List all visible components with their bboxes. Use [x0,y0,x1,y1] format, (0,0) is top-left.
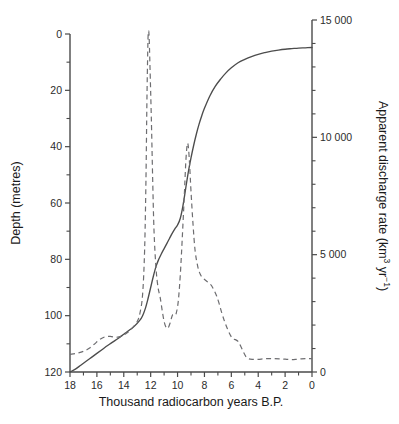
left-axis-ticks: 020406080100120 [44,28,70,378]
bottom-tick-label: 18 [64,379,76,391]
chart-canvas: 020406080100120 181614121086420 05 00010… [0,0,399,424]
left-tick-label: 20 [50,84,62,96]
bottom-tick-label: 2 [282,379,288,391]
data-series-group [70,31,312,372]
right-tick-label: 10 000 [320,131,352,143]
left-tick-label: 40 [50,140,62,152]
x-axis-title: Thousand radiocarbon years B.P. [99,395,284,409]
bottom-axis-ticks: 181614121086420 [64,372,315,391]
bottom-tick-label: 12 [145,379,157,391]
left-tick-label: 80 [50,253,62,265]
left-tick-label: 60 [50,197,62,209]
bottom-tick-label: 4 [255,379,261,391]
right-tick-label: 15 000 [320,14,352,26]
series-discharge-curve [70,31,312,360]
bottom-tick-label: 6 [228,379,234,391]
bottom-tick-label: 8 [202,379,208,391]
right-axis-ticks: 05 00010 00015 000 [312,14,352,378]
bottom-tick-label: 0 [309,379,315,391]
left-axis-title: Depth (metres) [9,161,23,244]
right-axis-title: Apparent discharge rate (km3 yr−1) [376,101,392,291]
bottom-tick-label: 10 [172,379,184,391]
left-tick-label: 120 [44,366,62,378]
bottom-tick-label: 14 [118,379,130,391]
left-tick-label: 0 [56,28,62,40]
bottom-tick-label: 16 [91,379,103,391]
chart-figure: 020406080100120 181614121086420 05 00010… [0,0,399,424]
right-tick-label: 5 000 [320,248,346,260]
right-tick-label: 0 [320,366,326,378]
left-tick-label: 100 [44,309,62,321]
series-depth-curve [70,48,312,372]
